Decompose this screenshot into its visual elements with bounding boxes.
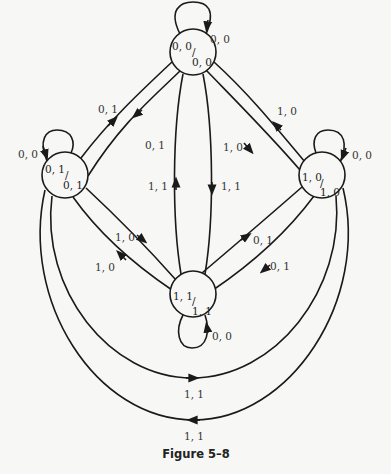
self-loop-label-right: 0, 0: [352, 149, 372, 161]
self-loop-label-bottom: 0, 0: [212, 330, 232, 342]
node-state-label: 0, 1: [63, 179, 83, 191]
edge-label: 1, 0: [115, 231, 135, 243]
node-state-label: 1, 0: [320, 186, 340, 198]
edge-top-to-bottom: [203, 74, 212, 274]
node-output-label: 0, 0: [172, 40, 192, 52]
edge-label: 0, 1: [145, 139, 165, 151]
state-diagram: 0, 0 / 0, 0 0, 1 / 0, 1 1, 0 / 1, 0 1, 1…: [0, 0, 391, 474]
node-state-label: 0, 0: [192, 56, 212, 68]
node-output-label: 0, 1: [45, 163, 65, 175]
self-loop-label-top: 0, 0: [210, 33, 230, 45]
edge-label: 1, 0: [95, 261, 115, 273]
diagram-svg: 0, 0 / 0, 0 0, 1 / 0, 1 1, 0 / 1, 0 1, 1…: [0, 0, 391, 474]
edge-label: 1, 1: [184, 430, 204, 442]
edge-label: 1, 0: [277, 105, 297, 117]
state-node-10: 1, 0 / 1, 0: [299, 152, 345, 198]
arrow-icon: [207, 20, 208, 27]
state-node-11: 1, 1 / 1, 1: [170, 271, 216, 317]
edge-bottom-to-top: [174, 74, 183, 274]
arrow-icon: [207, 327, 208, 333]
node-output-label: 1, 1: [173, 290, 193, 302]
state-node-01: 0, 1 / 0, 1: [42, 152, 88, 198]
edge-label: 1, 1: [184, 388, 204, 400]
edge-top-to-right: [206, 70, 300, 170]
self-loop-bottom: [179, 315, 208, 348]
edge-label: 0, 1: [253, 234, 273, 246]
edge-bottom-to-left: [73, 197, 172, 290]
edge-label: 0, 1: [270, 260, 290, 272]
edge-label: 1, 1: [148, 180, 168, 192]
figure-caption: Figure 5–8: [162, 447, 229, 461]
edge-label: 1, 1: [221, 180, 241, 192]
edge-top-to-left: [88, 71, 180, 176]
self-loop-label-left: 0, 0: [18, 148, 38, 160]
edge-label: 0, 1: [98, 103, 118, 115]
arrow-icon: [244, 143, 250, 150]
edge-label: 1, 0: [223, 141, 243, 153]
node-state-label: 1, 1: [192, 305, 212, 317]
arrow-icon: [108, 120, 114, 126]
